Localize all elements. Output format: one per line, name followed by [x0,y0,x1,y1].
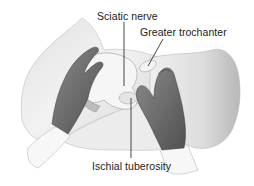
anatomy-illustration: Sciatic nerve Greater trochanter Ischial… [0,0,254,186]
label-sciatic-nerve: Sciatic nerve [97,10,158,22]
label-greater-trochanter: Greater trochanter [140,26,227,38]
ischial-tuberosity-bone [119,92,137,104]
label-ischial-tuberosity: Ischial tuberosity [92,160,171,172]
